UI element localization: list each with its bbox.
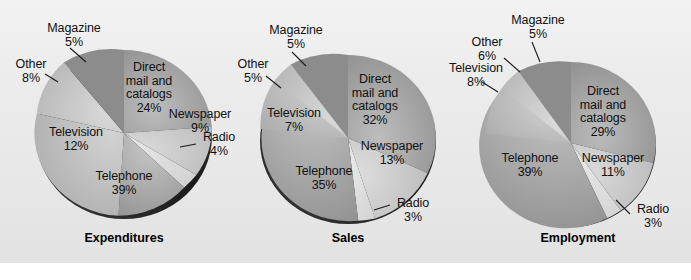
pie-chart-sales: Magazine5% Other5% Television7% Telephon… — [224, 0, 464, 250]
label-other: Other5% — [222, 58, 284, 85]
label-television: Television12% — [36, 126, 116, 153]
label-other: Other6% — [456, 36, 518, 63]
label-other: Other8% — [0, 58, 62, 85]
label-telephone: Telephone39% — [80, 170, 168, 197]
label-newspaper: Newspaper13% — [352, 140, 432, 167]
label-direct-mail: Directmail andcatalogs32% — [336, 73, 414, 127]
label-television: Television7% — [254, 107, 334, 134]
chart-title-employment: Employment — [518, 231, 638, 245]
label-newspaper: Newspaper11% — [573, 152, 653, 179]
label-magazine: Magazine5% — [28, 22, 120, 49]
pie-chart-expenditures: Magazine5% Other8% Television12% Telepho… — [0, 0, 240, 250]
pie-chart-employment: Magazine5% Other6% Television8% Telephon… — [448, 0, 691, 250]
label-magazine: Magazine5% — [250, 24, 342, 51]
label-radio: Radio3% — [390, 197, 436, 224]
chart-title-sales: Sales — [298, 231, 398, 245]
leader-magazine — [532, 42, 540, 62]
label-radio: Radio3% — [630, 203, 676, 230]
label-direct-mail: Directmail andcatalogs29% — [564, 85, 642, 139]
label-telephone: Telephone35% — [280, 165, 368, 192]
figure-canvas: Magazine5% Other8% Television12% Telepho… — [0, 0, 691, 280]
label-television: Television8% — [436, 62, 516, 89]
label-telephone: Telephone39% — [486, 152, 574, 179]
chart-title-expenditures: Expenditures — [64, 231, 184, 245]
